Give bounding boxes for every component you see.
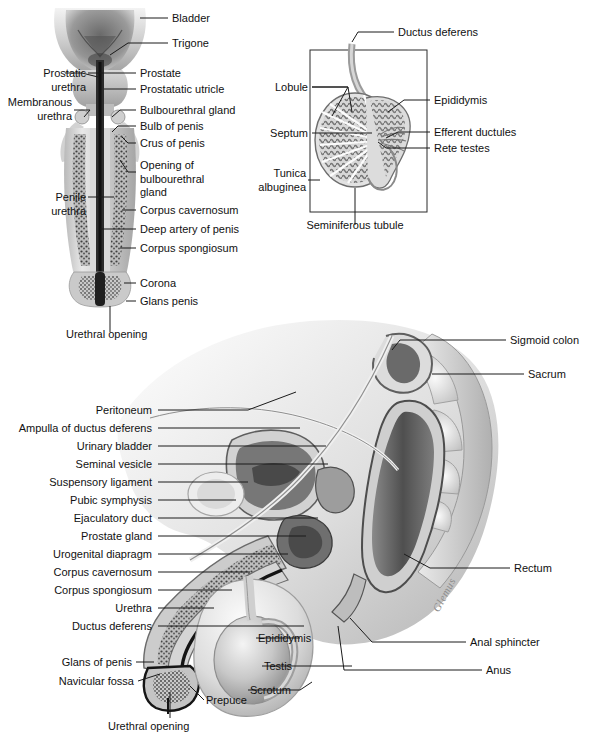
label-septum: Septum (246, 127, 308, 140)
panel-testis-art (310, 44, 427, 212)
label-trigone: Trigone (172, 37, 209, 50)
label-suspensory-ligament: Suspensory ligament (0, 476, 152, 489)
label-opening-of-bulbourethral-gland: Opening ofbulbourethralgland (140, 159, 232, 200)
label-urethra: Urethra (0, 602, 152, 615)
label-bulbourethral-gland: Bulbourethral gland (140, 104, 235, 117)
label-urethral-opening-sagittal: Urethral opening (108, 720, 189, 733)
label-rectum: Rectum (514, 562, 552, 575)
label-navicular-fossa: Navicular fossa (0, 675, 134, 688)
label-corpus-cavernosum-sagittal: Corpus cavernosum (0, 566, 152, 579)
label-glans-of-penis: Glans of penis (0, 656, 132, 669)
label-urethral-opening-frontal: Urethral opening (66, 328, 147, 341)
label-corpus-spongiosum-sagittal: Corpus spongiosum (0, 584, 152, 597)
label-crus-of-penis: Crus of penis (140, 137, 205, 150)
label-prostatic-urethra: Prostaticurethra (2, 67, 86, 94)
label-corpus-spongiosum-frontal: Corpus spongiosum (140, 242, 238, 255)
label-ampulla-of-ductus-deferens: Ampulla of ductus deferens (0, 422, 152, 435)
label-ductus-deferens-testis: Ductus deferens (398, 26, 478, 39)
label-sacrum: Sacrum (528, 368, 566, 381)
label-prostate-gland: Prostate gland (0, 530, 152, 543)
label-membranous-urethra: Membranousurethra (0, 96, 72, 123)
label-seminal-vesicle: Seminal vesicle (0, 458, 152, 471)
panel-penis-frontal-art (54, 8, 146, 307)
label-bladder: Bladder (172, 12, 210, 25)
label-peritoneum: Peritoneum (0, 404, 152, 417)
label-sigmoid-colon: Sigmoid colon (510, 334, 579, 347)
label-efferent-ductules: Efferent ductules (434, 126, 516, 139)
label-epididymis-testis: Epididymis (434, 94, 487, 107)
label-testis: Testis (264, 660, 292, 673)
label-scrotum: Scrotum (250, 684, 291, 697)
label-ejaculatory-duct: Ejaculatory duct (0, 512, 152, 525)
label-rete-testes: Rete testes (434, 142, 490, 155)
label-anal-sphincter: Anal sphincter (470, 636, 540, 649)
label-penile-urethra: Penileurethra (10, 191, 86, 218)
label-seminiferous-tubule: Seminiferous tubule (302, 219, 408, 232)
label-prostatatic-utricle: Prostatatic utricle (140, 83, 224, 96)
label-deep-artery-of-penis: Deep artery of penis (140, 223, 239, 236)
label-corona: Corona (140, 277, 176, 290)
label-prostate: Prostate (140, 67, 181, 80)
label-bulb-of-penis: Bulb of penis (140, 120, 204, 133)
label-glans-penis: Glans penis (140, 295, 198, 308)
label-ductus-deferens-sagittal: Ductus deferens (0, 620, 152, 633)
label-epididymis-sagittal: Epididymis (258, 632, 311, 645)
label-tunica-albuginea: Tunicaalbuginea (240, 167, 306, 194)
label-pubic-symphysis: Pubic symphysis (0, 494, 152, 507)
label-urogenital-diapragm: Urogenital diapragm (0, 548, 152, 561)
label-anus: Anus (486, 664, 511, 677)
label-corpus-cavernosum-frontal: Corpus cavernosum (140, 204, 238, 217)
label-lobule: Lobule (246, 81, 308, 94)
label-urinary-bladder: Urinary bladder (0, 440, 152, 453)
label-prepuce: Prepuce (206, 694, 247, 707)
